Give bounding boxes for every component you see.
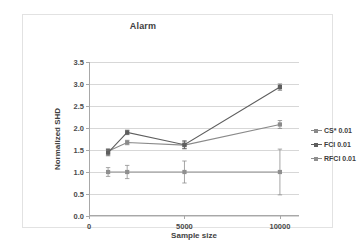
legend-marker-icon [311, 141, 322, 148]
legend-item-2[interactable]: RFCI 0.01 [311, 155, 357, 162]
chart-title: Alarm [23, 21, 263, 31]
data-point-marker [106, 151, 110, 155]
legend-label: CS* 0.01 [324, 127, 352, 134]
data-point-marker [182, 143, 186, 147]
legend-marker-icon [311, 155, 322, 162]
chart-frame: Alarm Normalized SHD Sample size 0.00.51… [22, 14, 333, 228]
series-0 [106, 121, 282, 154]
gridline [89, 216, 299, 217]
data-point-marker [278, 85, 282, 89]
legend-label: RFCI 0.01 [324, 155, 356, 162]
y-tick-label: 2.0 [74, 124, 84, 133]
series-2 [106, 149, 282, 195]
chart-legend: CS* 0.01FCI 0.01RFCI 0.01 [311, 127, 357, 169]
legend-item-1[interactable]: FCI 0.01 [311, 141, 357, 148]
y-tick-label: 3.5 [74, 58, 84, 67]
series-layer [89, 62, 299, 216]
x-tick-label: 5000 [176, 222, 193, 231]
data-point-marker [106, 170, 110, 174]
data-point-marker [182, 170, 186, 174]
plot-area: 0.00.51.01.52.02.53.03.5 0500010000 [89, 62, 299, 216]
data-point-marker [278, 122, 282, 126]
x-tick-mark [89, 216, 90, 219]
x-tick-mark [184, 216, 185, 219]
x-tick-label: 0 [87, 222, 91, 231]
data-point-marker [125, 140, 129, 144]
legend-marker-icon [311, 127, 322, 134]
data-point-marker [125, 170, 129, 174]
x-tick-label: 10000 [269, 222, 290, 231]
y-tick-label: 1.5 [74, 146, 84, 155]
legend-label: FCI 0.01 [324, 141, 351, 148]
series-1 [106, 84, 282, 156]
series-line [108, 124, 280, 151]
data-point-marker [125, 130, 129, 134]
x-tick-mark [280, 216, 281, 219]
y-axis-label: Normalized SHD [53, 108, 62, 170]
y-tick-label: 2.5 [74, 102, 84, 111]
legend-item-0[interactable]: CS* 0.01 [311, 127, 357, 134]
x-axis-label: Sample size [89, 231, 299, 240]
y-tick-label: 3.0 [74, 80, 84, 89]
y-tick-label: 1.0 [74, 168, 84, 177]
y-tick-label: 0.0 [74, 212, 84, 221]
data-point-marker [278, 170, 282, 174]
y-tick-label: 0.5 [74, 190, 84, 199]
